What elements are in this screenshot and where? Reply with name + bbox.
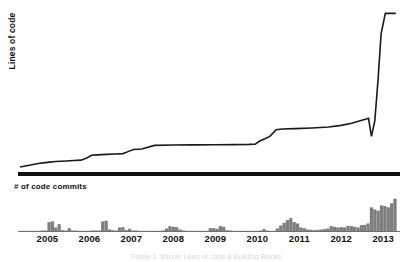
commit-bar — [299, 227, 302, 231]
commit-bar — [363, 225, 366, 232]
lines-of-code-series-path — [20, 13, 396, 167]
commit-bar — [172, 227, 175, 232]
commit-bar — [219, 226, 222, 231]
commit-bar — [51, 221, 54, 231]
commit-bar — [175, 227, 178, 231]
x-tick-2006: 2006 — [79, 233, 101, 244]
commit-bar — [390, 203, 393, 231]
commit-bar — [296, 223, 299, 231]
x-tick-2010: 2010 — [247, 233, 269, 244]
commit-bar — [366, 223, 369, 231]
code-commits-axis-label: # of code commits — [14, 182, 87, 191]
commit-bar — [370, 207, 373, 231]
commit-bar — [303, 228, 306, 231]
x-tick-2009: 2009 — [205, 233, 227, 244]
commit-bar — [383, 206, 386, 231]
x-tick-2011: 2011 — [289, 233, 310, 244]
commit-bar — [54, 227, 57, 231]
panel-separator-bar — [18, 172, 400, 176]
x-tick-2013: 2013 — [372, 233, 394, 244]
commit-bar — [387, 207, 390, 231]
commit-bar — [377, 211, 380, 232]
commit-bar — [373, 209, 376, 231]
commit-bar — [353, 227, 356, 232]
commit-bar — [212, 228, 215, 231]
figure-caption: Figure 1. Bitcoin Lines of code & Buildi… — [0, 253, 412, 260]
commit-bar — [380, 205, 383, 231]
x-tick-2008: 2008 — [163, 233, 185, 244]
commit-bar — [58, 224, 61, 231]
commit-bar — [209, 228, 212, 231]
commit-bar — [330, 226, 333, 231]
x-tick-2007: 2007 — [121, 233, 143, 244]
commit-bar — [360, 225, 363, 231]
lines-of-code-line-chart — [0, 0, 412, 262]
code-commits-bars — [21, 199, 397, 232]
commit-bar — [346, 226, 349, 232]
commit-bar — [333, 227, 336, 232]
commit-bar — [47, 222, 50, 231]
commit-bar — [286, 220, 289, 231]
commit-bar — [222, 227, 225, 232]
commit-bar — [118, 227, 121, 231]
commit-bar — [289, 218, 292, 231]
commit-bar — [121, 227, 124, 231]
commit-bar — [168, 226, 171, 231]
commit-bar — [350, 226, 353, 231]
commit-bar — [356, 227, 359, 231]
commit-bar — [293, 222, 296, 231]
commit-bar — [68, 228, 71, 231]
commit-bar — [343, 227, 346, 231]
commit-bar — [279, 225, 282, 231]
commit-bar — [340, 227, 343, 231]
commit-bar — [101, 221, 104, 231]
figure-bitcoin-code-activity: Lines of code # of code commits 20052006… — [0, 0, 412, 262]
commit-bar — [105, 221, 108, 232]
commit-bar — [283, 223, 286, 232]
commit-bar — [336, 227, 339, 231]
x-tick-2005: 2005 — [37, 233, 59, 244]
commit-bar — [393, 199, 396, 232]
x-tick-2012: 2012 — [330, 233, 352, 244]
